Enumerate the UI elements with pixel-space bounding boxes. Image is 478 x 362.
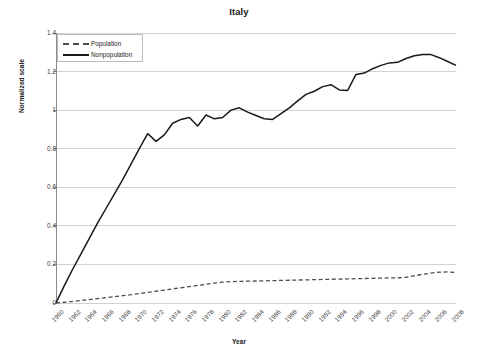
legend-item-nonpopulation: Nonpopulation [63, 49, 141, 60]
legend-label: Population [91, 38, 121, 49]
legend-item-population: Population [63, 38, 141, 49]
chart-container: Italy Normalized scale Year 00.20.40.60.… [0, 0, 478, 362]
legend-label: Nonpopulation [91, 49, 132, 60]
legend-solid-swatch [63, 54, 89, 56]
legend-dash-swatch [63, 43, 89, 45]
legend: Population Nonpopulation [57, 34, 143, 62]
